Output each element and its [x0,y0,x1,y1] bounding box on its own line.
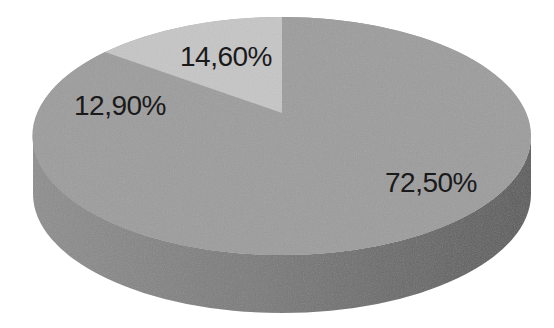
label-slice-12-90: 12,90% [74,92,166,120]
pie-chart: 14,60% 12,90% 72,50% [0,0,554,328]
label-slice-72-50: 72,50% [385,169,477,197]
pie-chart-graphic [0,0,554,328]
label-slice-14-60: 14,60% [180,43,272,71]
